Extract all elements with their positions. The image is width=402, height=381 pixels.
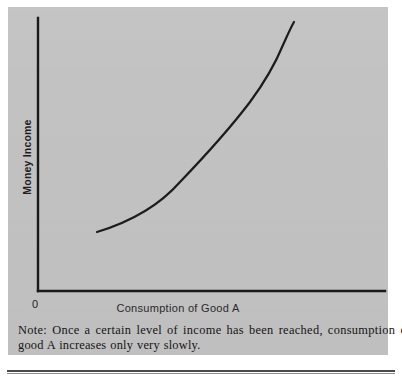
x-axis-label: Consumption of Good A — [8, 302, 348, 314]
y-axis-label: Money Income — [21, 109, 33, 205]
bottom-rule-secondary — [7, 373, 395, 374]
figure-note: Note: Once a certain level of income has… — [18, 323, 382, 352]
figure-root: 0 Money Income Consumption of Good A Not… — [0, 0, 402, 381]
figure-note-line-1: Note: Once a certain level of income has… — [18, 323, 382, 338]
figure-note-line-2: good A increases only very slowly. — [18, 338, 382, 353]
chart-panel: 0 Money Income Consumption of Good A Not… — [8, 7, 388, 355]
bottom-rule — [7, 370, 395, 372]
engel-curve — [97, 22, 294, 232]
